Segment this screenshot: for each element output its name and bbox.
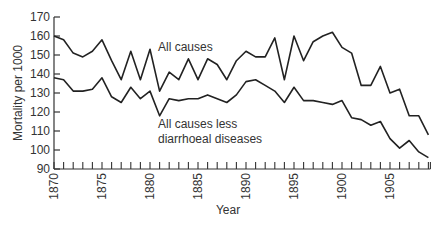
x-tick-label: 1875 bbox=[95, 173, 109, 200]
x-tick-label: 1895 bbox=[287, 173, 301, 200]
y-axis: 90100110120130140150160170 bbox=[30, 10, 60, 176]
x-tick-label: 1905 bbox=[383, 173, 397, 200]
x-tick-label: 1870 bbox=[47, 173, 61, 200]
x-tick-label: 1900 bbox=[335, 173, 349, 200]
y-axis-title: Mortality per 1000 bbox=[11, 45, 25, 141]
y-tick-label: 140 bbox=[30, 67, 50, 81]
y-tick-label: 170 bbox=[30, 10, 50, 24]
x-axis-title: Year bbox=[216, 203, 240, 217]
series-label-less-diarrhoeal-2: diarrhoeal diseases bbox=[158, 132, 262, 146]
mortality-line-chart: 90100110120130140150160170 1870187518801… bbox=[0, 0, 448, 225]
y-tick-label: 150 bbox=[30, 48, 50, 62]
y-tick-label: 100 bbox=[30, 143, 50, 157]
y-tick-label: 130 bbox=[30, 86, 50, 100]
y-tick-label: 120 bbox=[30, 105, 50, 119]
y-tick-label: 110 bbox=[31, 124, 50, 138]
series-label-all-causes: All causes bbox=[158, 40, 213, 54]
x-axis: 18701875188018851890189519001905 bbox=[47, 162, 430, 200]
y-tick-label: 160 bbox=[30, 29, 50, 43]
x-tick-label: 1885 bbox=[191, 173, 205, 200]
x-tick-label: 1880 bbox=[143, 173, 157, 200]
series-all-causes-line bbox=[54, 32, 428, 135]
x-tick-label: 1890 bbox=[239, 173, 253, 200]
series-label-less-diarrhoeal-1: All causes less bbox=[158, 117, 237, 131]
